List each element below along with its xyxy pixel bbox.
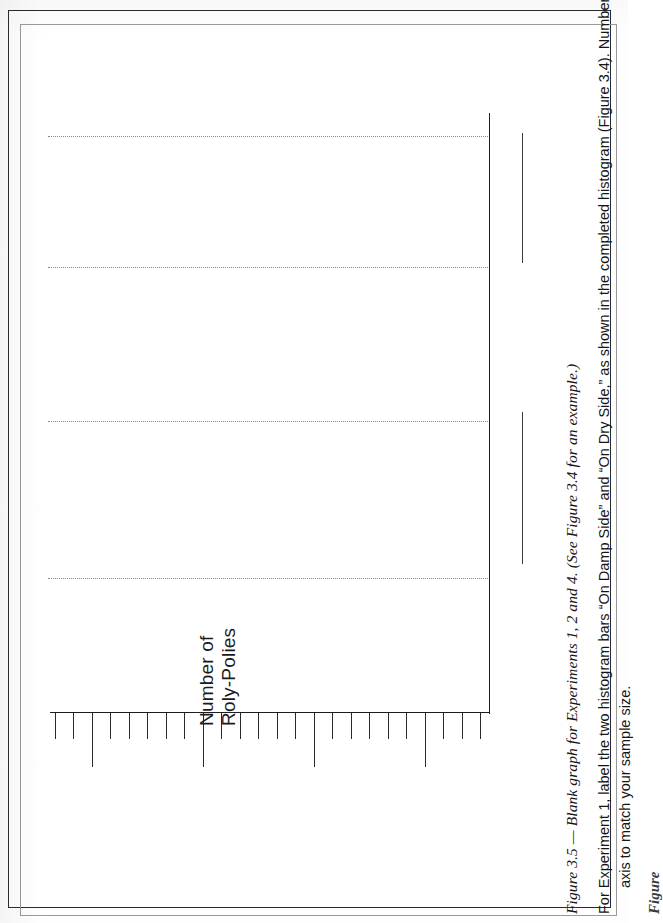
page-edge-rule-bottom: [522, 412, 523, 564]
y-axis-label-line-2: Roly-Polies: [218, 526, 240, 726]
axis-tick: [351, 713, 352, 739]
value-axis-line: [489, 113, 490, 714]
axis-tick: [480, 713, 481, 739]
axis-tick: [295, 713, 296, 739]
y-axis-label-line-1: Number of: [196, 526, 218, 726]
axis-tick-major: [314, 713, 315, 767]
axis-tick: [406, 713, 407, 739]
next-figure-caption-partial: Figure: [646, 14, 663, 914]
y-axis-label: Number of Roly-Polies: [196, 526, 241, 726]
axis-tick-major: [425, 713, 426, 767]
gridline-3: [48, 421, 490, 422]
gridline-2: [48, 267, 490, 268]
axis-tick: [462, 713, 463, 739]
instruction-paragraph: For Experiment 1, label the two histogra…: [594, 14, 636, 914]
axis-tick: [332, 713, 333, 739]
gridline-4: [48, 578, 490, 579]
axis-tick: [277, 713, 278, 739]
axis-tick: [129, 713, 130, 739]
gridline-1: [48, 136, 490, 137]
figure-caption: Figure 3.5 — Blank graph for Experiments…: [563, 14, 581, 914]
axis-tick: [110, 713, 111, 739]
instruction-line-2: axis to match your sample size.: [615, 14, 636, 914]
axis-tick: [73, 713, 74, 739]
category-axis-line: [50, 712, 490, 713]
axis-tick-major: [92, 713, 93, 767]
axis-tick: [369, 713, 370, 739]
page-edge-rule-top: [522, 133, 523, 263]
axis-tick: [55, 713, 56, 739]
caption-block: Figure 3.5 — Blank graph for Experiments…: [563, 14, 663, 914]
axis-tick: [443, 713, 444, 739]
axis-tick: [166, 713, 167, 739]
axis-tick: [147, 713, 148, 739]
axis-tick: [184, 713, 185, 739]
axis-tick: [258, 713, 259, 739]
instruction-line-1: For Experiment 1, label the two histogra…: [596, 0, 612, 914]
axis-tick: [388, 713, 389, 739]
